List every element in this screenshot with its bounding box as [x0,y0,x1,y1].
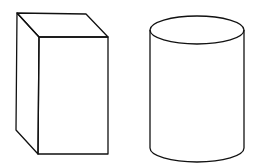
cylinder [150,16,244,162]
prism-side-face [16,13,39,154]
prism-front-face [38,37,108,154]
rectangular-prism [16,13,108,154]
prism-top-face [17,13,108,37]
cylinder-top-ellipse [150,16,244,44]
geometric-solids-diagram [0,0,258,165]
cylinder-bottom-arc [150,148,244,162]
figure-canvas [0,0,258,165]
